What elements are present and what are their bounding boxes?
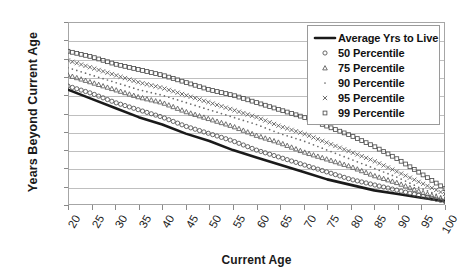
x-tick-mark [162, 205, 163, 210]
chart-legend: Average Yrs to Live50 Percentile75 Perce… [307, 25, 440, 125]
legend-item: 50 Percentile [312, 45, 434, 60]
x-tick-mark [374, 205, 375, 210]
x-tick-mark [233, 205, 234, 210]
legend-item: 90 Percentile [312, 75, 434, 90]
dot-marker-icon [312, 77, 338, 89]
legend-item-label: 50 Percentile [338, 47, 405, 59]
legend-item-label: Average Yrs to Live [338, 32, 438, 44]
x-tick-mark [327, 205, 328, 210]
legend-item: 99 Percentile [312, 105, 434, 120]
x-tick-mark [280, 205, 281, 210]
x-tick-mark [398, 205, 399, 210]
legend-item: Average Yrs to Live [312, 30, 434, 45]
legend-item-label: 90 Percentile [338, 77, 405, 89]
x-tick-mark [351, 205, 352, 210]
x-tick-mark [445, 205, 446, 210]
legend-item-label: 99 Percentile [338, 107, 405, 119]
cross-marker-icon [312, 92, 338, 104]
x-tick-mark [139, 205, 140, 210]
x-tick-mark [68, 205, 69, 210]
x-tick-mark [92, 205, 93, 210]
triangle-marker-icon [312, 62, 338, 74]
square-marker-icon [312, 107, 338, 119]
x-tick-mark [304, 205, 305, 210]
chart-container: Years Beyond Current Age Current Age 010… [0, 0, 465, 277]
legend-item-label: 95 Percentile [338, 92, 405, 104]
x-tick-mark [115, 205, 116, 210]
circle-marker-icon [312, 47, 338, 59]
x-tick-mark [209, 205, 210, 210]
x-tick-mark [421, 205, 422, 210]
legend-item: 75 Percentile [312, 60, 434, 75]
x-tick-mark [257, 205, 258, 210]
legend-item: 95 Percentile [312, 90, 434, 105]
line-marker-icon [312, 32, 338, 44]
x-tick-mark [186, 205, 187, 210]
legend-item-label: 75 Percentile [338, 62, 405, 74]
y-axis-title: Years Beyond Current Age [26, 17, 40, 207]
